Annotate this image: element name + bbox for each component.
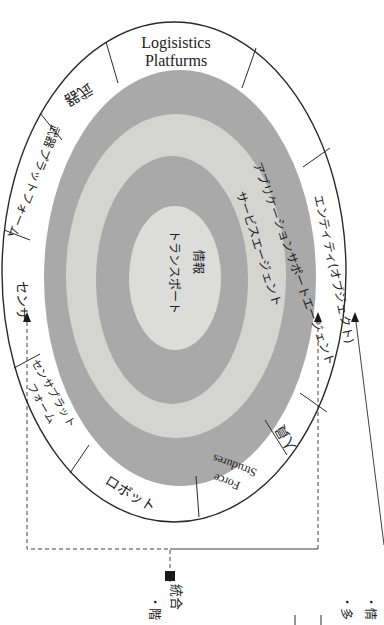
layered-architecture-diagram: Logisistics Platfurms 武器 武器プラットフォーム センサ … xyxy=(0,0,384,625)
core-label-line2: トランスポート xyxy=(167,230,181,314)
legend-integration-label: 統合 xyxy=(169,584,184,610)
legend-fragment-3: ・多 xyxy=(339,596,353,620)
segment-logistics-line1: Logisistics xyxy=(141,34,210,52)
core-label-line1: 情報 xyxy=(191,250,205,274)
segment-sensor: センサ xyxy=(15,281,30,320)
legend-fragment-2: ・情 xyxy=(363,596,377,620)
legend-square-marker xyxy=(165,571,175,581)
legend-fragment-1: ・階 xyxy=(147,596,162,620)
segment-logistics-line2: Platfurms xyxy=(145,52,207,69)
legend-tick-marks xyxy=(295,615,321,625)
